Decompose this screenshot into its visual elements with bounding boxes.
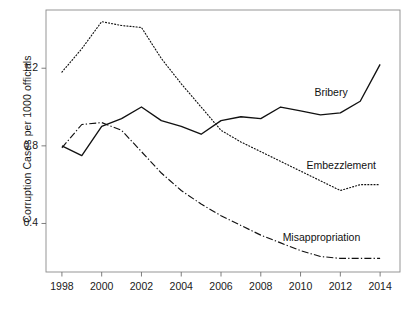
series-line-bribery: [62, 64, 380, 155]
series-label-misappropriation: Misappropriation: [283, 231, 361, 243]
axis-tick-marks: [42, 68, 381, 276]
plot-canvas: [0, 0, 417, 312]
data-series-layer: [62, 22, 380, 259]
series-label-embezzlement: Embezzlement: [306, 159, 375, 171]
corruption-cases-line-chart: Corruption Cases per 1000 officials 0.40…: [0, 0, 417, 312]
series-label-bribery: Bribery: [314, 86, 347, 98]
